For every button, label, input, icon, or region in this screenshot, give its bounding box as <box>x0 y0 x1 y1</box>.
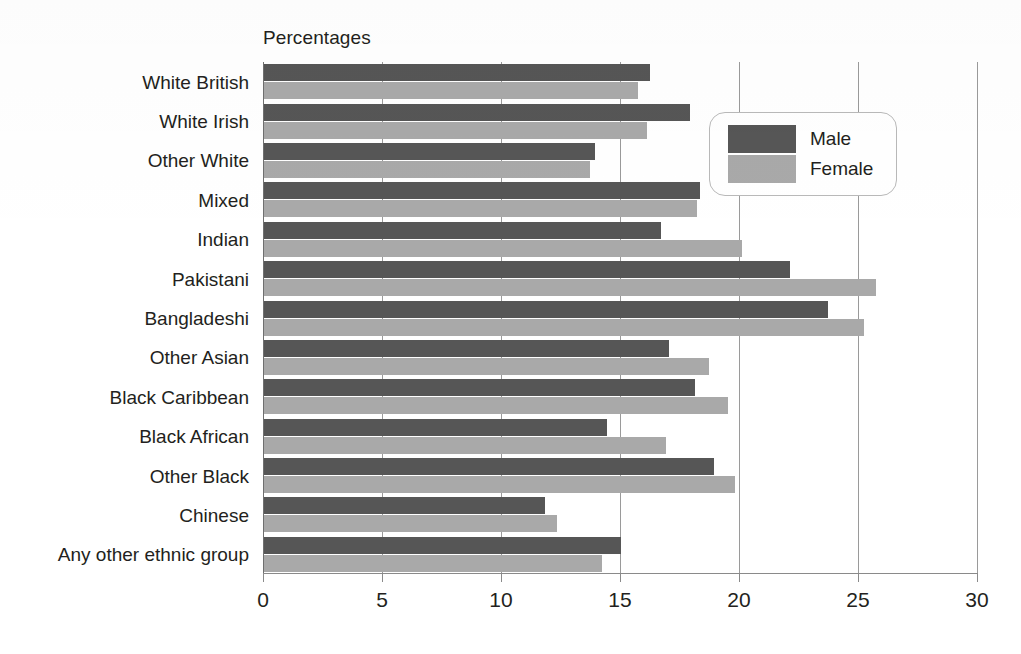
x-tick-label: 30 <box>965 588 988 612</box>
bar-female <box>264 240 742 257</box>
category-label: Other Asian <box>150 348 249 367</box>
bar-male <box>264 419 607 436</box>
category-label: Indian <box>197 230 249 249</box>
x-tick-15 <box>620 573 621 582</box>
bar-male <box>264 301 828 318</box>
bar-male <box>264 261 790 278</box>
bar-female <box>264 200 697 217</box>
category-label: Other White <box>148 151 249 170</box>
legend-swatch-icon <box>728 125 796 153</box>
category-label: White British <box>142 73 249 92</box>
chart-legend: MaleFemale <box>709 112 897 196</box>
x-tick-0 <box>263 573 264 582</box>
bar-female <box>264 476 735 493</box>
bar-male <box>264 104 690 121</box>
bar-female <box>264 319 864 336</box>
bar-female <box>264 437 666 454</box>
legend-label: Male <box>810 128 851 150</box>
category-label: Other Black <box>150 467 249 486</box>
bar-female <box>264 358 709 375</box>
category-label: White Irish <box>159 112 249 131</box>
gridline-30 <box>977 62 978 574</box>
bar-male <box>264 340 669 357</box>
bar-female <box>264 279 876 296</box>
bar-female <box>264 555 602 572</box>
bar-female <box>264 515 557 532</box>
legend-label: Female <box>810 158 873 180</box>
category-label: Bangladeshi <box>144 309 249 328</box>
bar-male <box>264 222 661 239</box>
legend-swatch-icon <box>728 155 796 183</box>
bar-female <box>264 82 638 99</box>
x-tick-20 <box>739 573 740 582</box>
category-label: Black African <box>139 427 249 446</box>
x-tick-label: 10 <box>489 588 512 612</box>
category-label: Any other ethnic group <box>58 545 249 564</box>
x-tick-25 <box>858 573 859 582</box>
bar-male <box>264 537 621 554</box>
chart-title: Percentages <box>263 27 371 49</box>
bar-male <box>264 497 545 514</box>
x-tick-10 <box>501 573 502 582</box>
x-tick-30 <box>977 573 978 582</box>
x-tick-label: 0 <box>257 588 269 612</box>
category-label: Pakistani <box>172 270 249 289</box>
x-tick-label: 15 <box>608 588 631 612</box>
x-tick-label: 20 <box>727 588 750 612</box>
bar-female <box>264 122 647 139</box>
category-label: Mixed <box>198 191 249 210</box>
x-tick-5 <box>382 573 383 582</box>
bar-male <box>264 458 714 475</box>
bar-male <box>264 64 650 81</box>
bar-male <box>264 143 595 160</box>
bar-female <box>264 161 590 178</box>
bar-male <box>264 182 700 199</box>
x-tick-label: 25 <box>846 588 869 612</box>
category-label: Black Caribbean <box>110 388 249 407</box>
bar-chart: Percentages 051015202530 White BritishWh… <box>0 0 1021 654</box>
bar-female <box>264 397 728 414</box>
bar-male <box>264 379 695 396</box>
category-label: Chinese <box>179 506 249 525</box>
x-tick-label: 5 <box>376 588 388 612</box>
